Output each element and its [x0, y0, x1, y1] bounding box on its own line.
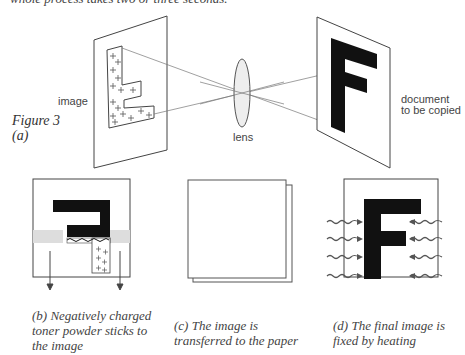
- panel-c-paper: [188, 180, 292, 282]
- lens-label: lens: [233, 131, 253, 143]
- image-plane: [94, 16, 167, 168]
- photocopier-diagram: whole process takes two or three seconds…: [0, 0, 465, 355]
- document-label-2: to be copied: [401, 104, 461, 116]
- image-label: image: [58, 95, 88, 107]
- panel-b-toner: [33, 179, 130, 290]
- caption-c: (c) The image is transferred to the pape…: [174, 318, 298, 348]
- caption-d: (d) The final image is fixed by heating: [333, 318, 445, 348]
- document-plane: [317, 17, 390, 168]
- caption-b: (b) Negatively charged toner powder stic…: [32, 308, 151, 353]
- figure-label: Figure 3: [12, 113, 60, 128]
- panel-d-heat: [327, 179, 442, 279]
- figure-sublabel: (a): [12, 128, 28, 143]
- diagram-graphics: [0, 0, 465, 355]
